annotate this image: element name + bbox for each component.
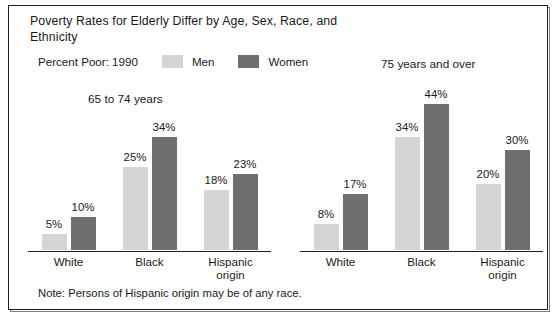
poverty-rates-figure: Poverty Rates for Elderly Differ by Age,…	[0, 0, 559, 323]
legend-label-men: Men	[192, 55, 215, 68]
bar-women-black: 34%	[152, 137, 177, 250]
bar-value-label: 23%	[234, 158, 257, 170]
category-label-line: White	[300, 255, 381, 268]
bar-slot: 5%	[42, 234, 67, 251]
category-label: White	[28, 255, 109, 281]
chart-panel-75-and-over: 8%17%34%44%20%30% WhiteBlackHispanicorig…	[300, 100, 543, 252]
bar-value-label: 44%	[425, 88, 448, 100]
bar-value-label: 20%	[477, 168, 500, 180]
chart-panel-65-to-74: 5%10%25%34%18%23% WhiteBlackHispanicorig…	[28, 100, 271, 252]
bar-slot: 25%	[123, 167, 148, 250]
legend-swatch-women	[238, 55, 259, 68]
category-labels: WhiteBlackHispanicorigin	[28, 255, 271, 281]
figure-note: Note: Persons of Hispanic origin may be …	[38, 287, 302, 299]
bar-value-label: 17%	[344, 178, 367, 190]
category-label-line: White	[28, 255, 109, 268]
bar-slot: 34%	[395, 137, 420, 250]
bar-women-hispanic: 23%	[233, 174, 258, 251]
bar-groups: 8%17%34%44%20%30%	[300, 100, 543, 250]
bar-slot: 18%	[204, 190, 229, 250]
bar-group: 25%34%	[109, 100, 190, 250]
bar-slot: 20%	[476, 184, 501, 251]
bar-value-label: 10%	[72, 201, 95, 213]
bar-group: 34%44%	[381, 100, 462, 250]
x-axis-line	[300, 251, 543, 252]
bar-group: 18%23%	[190, 100, 271, 250]
x-axis-line	[28, 251, 271, 252]
category-label-line: origin	[190, 268, 271, 281]
category-label-line: Hispanic	[190, 255, 271, 268]
bar-women-white: 10%	[71, 217, 96, 250]
bar-men-white: 8%	[314, 224, 339, 251]
legend-label-women: Women	[268, 55, 308, 68]
bar-men-white: 5%	[42, 234, 67, 251]
bar-value-label: 5%	[46, 218, 62, 230]
bar-group: 20%30%	[462, 100, 543, 250]
category-label: Black	[381, 255, 462, 281]
legend-swatch-men	[162, 55, 183, 68]
bar-groups: 5%10%25%34%18%23%	[28, 100, 271, 250]
bar-value-label: 18%	[205, 174, 228, 186]
category-labels: WhiteBlackHispanicorigin	[300, 255, 543, 281]
bar-men-black: 25%	[123, 167, 148, 250]
category-label-line: Black	[109, 255, 190, 268]
bar-slot: 34%	[152, 137, 177, 250]
bar-value-label: 34%	[396, 121, 419, 133]
bar-group: 5%10%	[28, 100, 109, 250]
bar-slot: 8%	[314, 224, 339, 251]
bar-men-black: 34%	[395, 137, 420, 250]
chart-legend: Percent Poor: 1990 Men Women	[38, 53, 308, 70]
bar-women-hispanic: 30%	[505, 150, 530, 250]
bar-value-label: 34%	[153, 121, 176, 133]
category-label-line: origin	[462, 268, 543, 281]
bar-women-black: 44%	[424, 104, 449, 251]
bar-men-hispanic: 18%	[204, 190, 229, 250]
bar-value-label: 30%	[506, 134, 529, 146]
panel-heading-75-and-over: 75 years and over	[381, 57, 475, 71]
percent-poor-caption: Percent Poor: 1990	[38, 55, 138, 68]
bar-slot: 44%	[424, 104, 449, 251]
category-label: White	[300, 255, 381, 281]
bar-slot: 30%	[505, 150, 530, 250]
category-label: Hispanicorigin	[462, 255, 543, 281]
bar-men-hispanic: 20%	[476, 184, 501, 251]
bar-value-label: 8%	[318, 208, 334, 220]
category-label: Hispanicorigin	[190, 255, 271, 281]
category-label: Black	[109, 255, 190, 281]
category-label-line: Black	[381, 255, 462, 268]
figure-title: Poverty Rates for Elderly Differ by Age,…	[30, 14, 360, 45]
bar-value-label: 25%	[124, 151, 147, 163]
bar-group: 8%17%	[300, 100, 381, 250]
bar-slot: 10%	[71, 217, 96, 250]
bar-slot: 17%	[343, 194, 368, 251]
bar-women-white: 17%	[343, 194, 368, 251]
bar-slot: 23%	[233, 174, 258, 251]
category-label-line: Hispanic	[462, 255, 543, 268]
